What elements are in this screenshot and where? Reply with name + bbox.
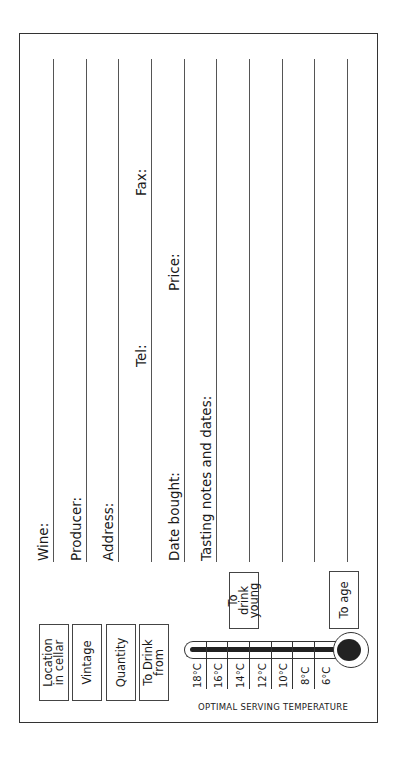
box-quantity[interactable]: Quantity [106, 624, 136, 701]
line-tasting-notes-5[interactable] [347, 59, 348, 562]
line-tel-fax[interactable] [151, 59, 152, 562]
box-vintage-label: Vintage [82, 640, 93, 684]
box-location-in-cellar[interactable]: Location in cellar [39, 624, 69, 701]
line-tasting-notes-2[interactable] [249, 59, 250, 562]
temp-16: 16°C [213, 663, 224, 688]
label-fax: Fax: [135, 169, 149, 196]
line-date-price[interactable] [184, 59, 185, 562]
box-to-drink-from-label: To Drink from [143, 637, 165, 689]
line-wine[interactable] [53, 59, 54, 562]
wine-cellar-card: Wine: Producer: Address: Tel: Fax: Date … [19, 33, 378, 723]
line-tasting-notes-3[interactable] [282, 59, 283, 562]
box-to-drink-from[interactable]: To Drink from [139, 624, 169, 701]
label-date-bought: Date bought: [168, 472, 182, 561]
temp-18: 18°C [192, 663, 203, 688]
marker-young-label: To drink young [228, 581, 261, 621]
temp-8: 8°C [300, 667, 311, 685]
line-address[interactable] [118, 59, 119, 562]
box-location-label: Location in cellar [43, 637, 65, 689]
label-tasting-notes: Tasting notes and dates: [200, 396, 214, 561]
label-producer: Producer: [70, 497, 84, 561]
marker-age-label: To age [339, 581, 350, 618]
line-producer[interactable] [86, 59, 87, 562]
label-wine: Wine: [37, 523, 51, 561]
temp-6: 6°C [321, 667, 332, 685]
box-to-age: To age [329, 571, 359, 629]
temp-14: 14°C [235, 663, 246, 688]
line-tasting-notes-1[interactable] [216, 59, 217, 562]
optimal-serving-temperature-caption: OPTIMAL SERVING TEMPERATURE [198, 702, 348, 712]
line-tasting-notes-4[interactable] [314, 59, 315, 562]
box-vintage[interactable]: Vintage [72, 624, 102, 701]
label-price: Price: [168, 254, 182, 291]
temp-12: 12°C [257, 663, 268, 688]
box-to-drink-young: To drink young [229, 572, 259, 629]
label-tel: Tel: [135, 344, 149, 367]
temp-10: 10°C [278, 663, 289, 688]
label-address: Address: [102, 503, 116, 561]
box-quantity-label: Quantity [116, 638, 127, 688]
